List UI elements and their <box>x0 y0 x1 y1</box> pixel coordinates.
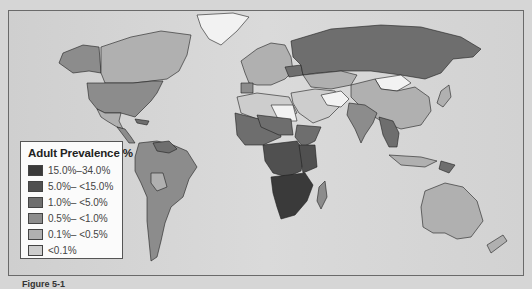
japan <box>437 85 451 107</box>
australia <box>421 183 483 239</box>
legend-label: 15.0%–34.0% <box>48 165 110 176</box>
southern-africa <box>271 173 313 219</box>
legend-swatch <box>28 181 43 192</box>
legend-item: 0.5%– <1.0% <box>28 210 116 226</box>
legend-swatch <box>28 213 43 224</box>
legend-swatch <box>28 245 43 256</box>
legend-item: 1.0%– <5.0% <box>28 194 116 210</box>
alaska <box>59 45 101 73</box>
iberia <box>241 83 253 93</box>
papua-new-guinea <box>439 161 455 173</box>
legend-label: 1.0%– <5.0% <box>48 197 108 208</box>
new-zealand <box>487 235 507 253</box>
legend-label: 5.0%– <15.0% <box>48 181 113 192</box>
legend-label: 0.1%– <0.5% <box>48 229 108 240</box>
central-africa <box>263 141 305 177</box>
south-america <box>135 141 197 261</box>
canada <box>101 31 191 83</box>
legend-swatch <box>28 165 43 176</box>
figure-caption: Figure 5-1 <box>22 279 65 289</box>
legend-label: <0.1% <box>48 245 77 256</box>
legend-item: <0.1% <box>28 242 116 258</box>
legend-title: Adult Prevalence % <box>28 147 116 159</box>
legend-item: 0.1%– <0.5% <box>28 226 116 242</box>
legend-item: 5.0%– <15.0% <box>28 178 116 194</box>
legend-swatch <box>28 197 43 208</box>
russia <box>291 25 481 79</box>
legend: Adult Prevalence % 15.0%–34.0% 5.0%– <15… <box>20 141 123 259</box>
legend-label: 0.5%– <1.0% <box>48 213 108 224</box>
europe-west <box>241 43 293 85</box>
legend-swatch <box>28 229 43 240</box>
indonesia <box>389 155 437 167</box>
greenland <box>197 13 249 45</box>
legend-item: 15.0%–34.0% <box>28 162 116 178</box>
